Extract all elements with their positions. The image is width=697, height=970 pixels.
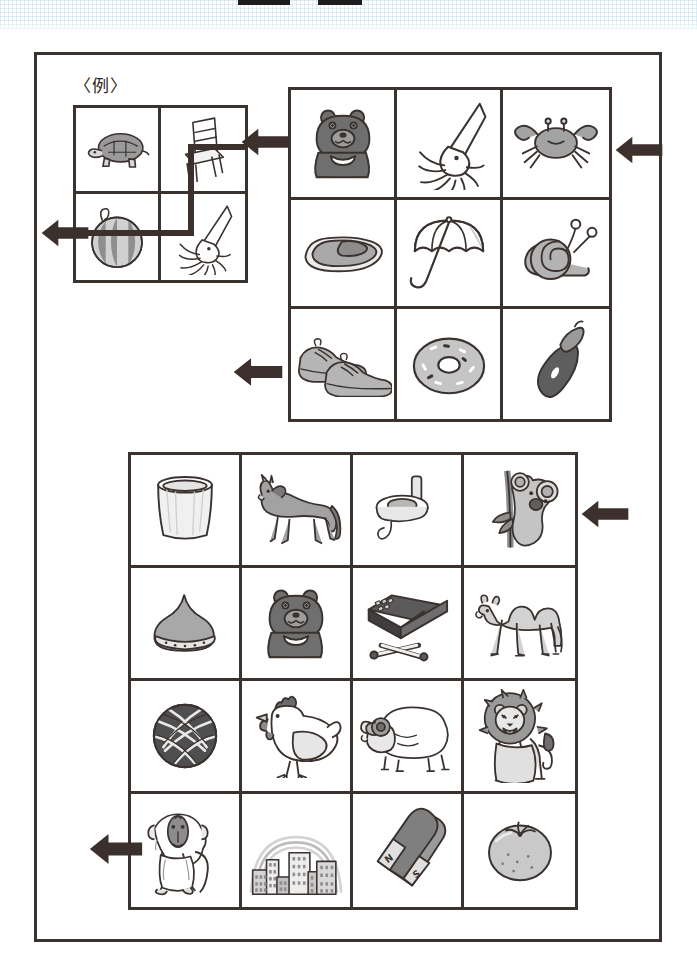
- grid-large-cell-matchbox[interactable]: [353, 568, 464, 681]
- cropped-header-mark-right: [318, 0, 362, 5]
- grid-small-cell-bread[interactable]: [291, 200, 397, 310]
- grid-large-cell-cityscape[interactable]: [242, 794, 353, 907]
- example-grid: [73, 105, 248, 283]
- grid-large-exit-arrow: [88, 829, 144, 869]
- grid-small-cell-umbrella[interactable]: [397, 200, 503, 310]
- grid-large-cell-sheep[interactable]: [353, 681, 464, 794]
- grid-large-cell-baboon[interactable]: [131, 794, 242, 907]
- grid-small-cell-crab[interactable]: [503, 90, 609, 200]
- example-entry-arrow: [240, 124, 290, 160]
- sheep-icon: [358, 698, 456, 774]
- chicken-icon: [250, 694, 342, 778]
- snail-icon: [511, 212, 601, 294]
- crab-icon: [508, 108, 604, 178]
- shoes-icon: [294, 331, 392, 397]
- grid-large-cell-bear[interactable]: [242, 568, 353, 681]
- grid-small: [288, 87, 612, 422]
- arrow-left-icon: [580, 496, 630, 532]
- bucket-icon: [146, 469, 224, 551]
- watermelon-icon: [83, 202, 151, 272]
- magnet-icon: [364, 807, 450, 895]
- umbrella-icon: [404, 208, 494, 298]
- grid-small-cell-bear[interactable]: [291, 90, 397, 200]
- grid-small-cell-donut[interactable]: [397, 309, 503, 419]
- persimmon-icon: [479, 814, 561, 888]
- camel-icon: [471, 581, 569, 665]
- grid-small-cell-snail[interactable]: [503, 200, 609, 310]
- matchbox-icon: [358, 582, 456, 664]
- baboon-icon: [142, 806, 228, 896]
- grid-large-cell-chicken[interactable]: [242, 681, 353, 794]
- squid-icon: [170, 199, 236, 275]
- grid-large-cell-horse[interactable]: [242, 455, 353, 568]
- squid-icon: [407, 96, 491, 190]
- example-cell-squid[interactable]: [161, 194, 246, 280]
- horse-icon: [247, 471, 345, 549]
- grid-large-cell-camel[interactable]: [464, 568, 575, 681]
- bear-icon: [299, 103, 387, 183]
- grid-small-exit-arrow: [232, 353, 284, 391]
- grid-large-entry-arrow: [580, 496, 630, 532]
- koala-icon: [480, 463, 560, 557]
- arrow-left-icon: [88, 829, 144, 869]
- grid-large-cell-lion[interactable]: [464, 681, 575, 794]
- acorn-icon: [525, 320, 587, 408]
- yarn-ball-icon: [146, 697, 224, 775]
- example-cell-chair[interactable]: [161, 108, 246, 194]
- example-label: 〈例〉: [74, 72, 128, 97]
- bear-icon: [252, 582, 340, 664]
- spinning-top-icon: [367, 469, 447, 551]
- grid-large-cell-persimmon[interactable]: [464, 794, 575, 907]
- lion-icon: [478, 689, 562, 783]
- grid-large-cell-chestnut[interactable]: [131, 568, 242, 681]
- chestnut-icon: [148, 589, 222, 657]
- grid-large-cell-yarn-ball[interactable]: [131, 681, 242, 794]
- grid-large-cell-magnet[interactable]: [353, 794, 464, 907]
- arrow-left-icon: [232, 353, 284, 391]
- example-exit-arrow: [40, 215, 90, 251]
- arrow-left-icon: [240, 124, 290, 160]
- grid-small-cell-squid[interactable]: [397, 90, 503, 200]
- cityscape-icon: [244, 807, 348, 895]
- grid-small-entry-arrow: [614, 132, 664, 168]
- grid-small-cell-shoes[interactable]: [291, 309, 397, 419]
- scanner-edge-fade: [0, 20, 697, 36]
- example-cell-turtle[interactable]: [76, 108, 161, 194]
- cropped-header-mark-left: [238, 0, 290, 5]
- donut-icon: [405, 325, 493, 403]
- chair-icon: [174, 112, 232, 188]
- grid-large: [128, 452, 578, 910]
- grid-small-cell-acorn[interactable]: [503, 309, 609, 419]
- grid-large-cell-bucket[interactable]: [131, 455, 242, 568]
- arrow-left-icon: [614, 132, 664, 168]
- grid-large-cell-spinning-top[interactable]: [353, 455, 464, 568]
- bread-icon: [295, 222, 391, 284]
- grid-large-cell-koala[interactable]: [464, 455, 575, 568]
- arrow-left-icon: [40, 215, 90, 251]
- turtle-icon: [80, 123, 154, 177]
